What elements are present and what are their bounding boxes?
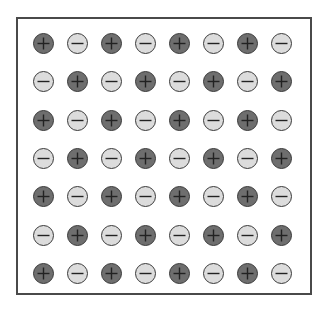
positive-charge-icon xyxy=(169,110,190,131)
negative-charge-icon xyxy=(33,148,54,169)
positive-charge-icon xyxy=(33,33,54,54)
positive-charge-icon xyxy=(169,33,190,54)
positive-charge-icon xyxy=(237,33,258,54)
negative-charge-icon xyxy=(203,110,224,131)
negative-charge-icon xyxy=(169,148,190,169)
positive-charge-icon xyxy=(203,225,224,246)
negative-charge-icon xyxy=(135,186,156,207)
positive-charge-icon xyxy=(67,71,88,92)
positive-charge-icon xyxy=(271,225,292,246)
negative-charge-icon xyxy=(237,71,258,92)
positive-charge-icon xyxy=(101,186,122,207)
negative-charge-icon xyxy=(101,225,122,246)
negative-charge-icon xyxy=(169,225,190,246)
negative-charge-icon xyxy=(67,186,88,207)
positive-charge-icon xyxy=(33,263,54,284)
lattice-frame xyxy=(16,17,312,295)
negative-charge-icon xyxy=(169,71,190,92)
positive-charge-icon xyxy=(101,263,122,284)
negative-charge-icon xyxy=(237,225,258,246)
positive-charge-icon xyxy=(169,186,190,207)
negative-charge-icon xyxy=(67,110,88,131)
negative-charge-icon xyxy=(101,148,122,169)
positive-charge-icon xyxy=(101,110,122,131)
positive-charge-icon xyxy=(237,110,258,131)
negative-charge-icon xyxy=(271,263,292,284)
negative-charge-icon xyxy=(33,71,54,92)
positive-charge-icon xyxy=(101,33,122,54)
positive-charge-icon xyxy=(271,71,292,92)
positive-charge-icon xyxy=(67,225,88,246)
negative-charge-icon xyxy=(271,110,292,131)
positive-charge-icon xyxy=(169,263,190,284)
negative-charge-icon xyxy=(67,263,88,284)
positive-charge-icon xyxy=(135,225,156,246)
positive-charge-icon xyxy=(33,186,54,207)
negative-charge-icon xyxy=(101,71,122,92)
positive-charge-icon xyxy=(271,148,292,169)
positive-charge-icon xyxy=(67,148,88,169)
negative-charge-icon xyxy=(135,263,156,284)
negative-charge-icon xyxy=(203,186,224,207)
positive-charge-icon xyxy=(237,263,258,284)
negative-charge-icon xyxy=(135,33,156,54)
positive-charge-icon xyxy=(135,148,156,169)
negative-charge-icon xyxy=(203,263,224,284)
negative-charge-icon xyxy=(271,33,292,54)
positive-charge-icon xyxy=(33,110,54,131)
positive-charge-icon xyxy=(203,71,224,92)
negative-charge-icon xyxy=(237,148,258,169)
negative-charge-icon xyxy=(67,33,88,54)
negative-charge-icon xyxy=(33,225,54,246)
negative-charge-icon xyxy=(203,33,224,54)
negative-charge-icon xyxy=(135,110,156,131)
negative-charge-icon xyxy=(271,186,292,207)
positive-charge-icon xyxy=(237,186,258,207)
positive-charge-icon xyxy=(203,148,224,169)
positive-charge-icon xyxy=(135,71,156,92)
